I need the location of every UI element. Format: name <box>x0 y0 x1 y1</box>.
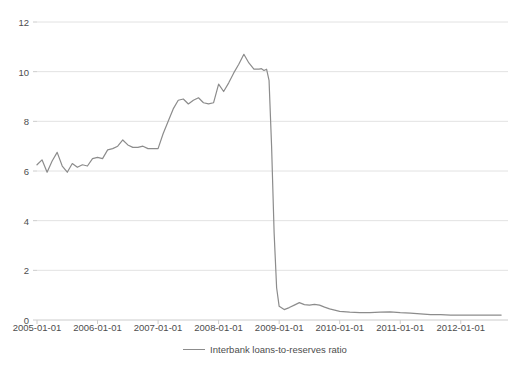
y-axis-tick-label: 6 <box>0 166 29 177</box>
data-series-group <box>37 54 501 315</box>
y-axis-tick-label: 2 <box>0 265 29 276</box>
legend-item-label: Interbank loans-to-reserves ratio <box>210 344 347 355</box>
x-axis-tick-label: 2006-01-01 <box>73 322 122 333</box>
x-axis-tick-label: 2008-01-01 <box>194 322 243 333</box>
y-axis-tick-label: 10 <box>0 66 29 77</box>
chart-legend: Interbank loans-to-reserves ratio <box>0 344 530 355</box>
gridlines-group <box>37 22 508 270</box>
x-axis-tick-label: 2012-01-01 <box>436 322 485 333</box>
y-axis-ticks-group <box>33 22 37 320</box>
legend-line-swatch <box>183 349 205 350</box>
legend-item-interbank-ratio[interactable]: Interbank loans-to-reserves ratio <box>183 344 347 355</box>
x-axis-tick-label: 2005-01-01 <box>13 322 62 333</box>
x-axis-tick-label: 2010-01-01 <box>315 322 364 333</box>
chart-container: 024681012 2005-01-012006-01-012007-01-01… <box>0 0 530 368</box>
x-axis-tick-label: 2007-01-01 <box>134 322 183 333</box>
y-axis-tick-label: 8 <box>0 116 29 127</box>
series-line-0 <box>37 54 501 315</box>
y-axis-tick-label: 12 <box>0 17 29 28</box>
y-axis-tick-label: 4 <box>0 215 29 226</box>
x-axis-tick-label: 2009-01-01 <box>255 322 304 333</box>
chart-plot-area <box>0 0 530 368</box>
x-axis-tick-label: 2011-01-01 <box>376 322 424 333</box>
